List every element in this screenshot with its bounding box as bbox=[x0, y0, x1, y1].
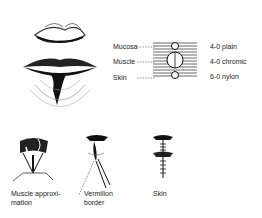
step-muscle-approximation-illustration bbox=[8, 133, 58, 183]
step-label-muscle-approximation-line1: Muscle approxi- bbox=[11, 190, 60, 198]
lips-illustration bbox=[5, 5, 115, 115]
layer-label-mucosa: Mucosa bbox=[113, 43, 138, 51]
step-label-vermilion-border-line2: border bbox=[84, 199, 104, 207]
layer-label-muscle: Muscle bbox=[113, 58, 135, 66]
step-skin-illustration bbox=[148, 133, 178, 183]
step-label-skin: Skin bbox=[153, 190, 167, 198]
step-vermilion-border-illustration bbox=[76, 133, 116, 198]
suture-label-skin: 6-0 nylon bbox=[210, 73, 239, 81]
step-label-muscle-approximation-line2: mation bbox=[11, 199, 32, 207]
leader-lines-left bbox=[137, 43, 157, 83]
layer-label-skin: Skin bbox=[113, 74, 127, 82]
suture-label-mucosa: 4-0 plain bbox=[210, 43, 237, 51]
step-label-vermilion-border-line1: Vermilion bbox=[84, 190, 113, 198]
suture-label-muscle: 4-0 chromic bbox=[210, 58, 247, 66]
layer-suture-diagram bbox=[153, 40, 197, 80]
